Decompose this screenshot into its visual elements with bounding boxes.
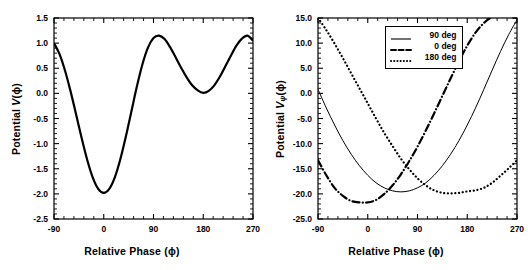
chart-panel-right: -25.0-20.0-15.0-10.0-5.00.05.010.015.0-9…	[264, 0, 528, 270]
y-tick-label: 0.0	[300, 88, 312, 98]
y-tick-label: 5.0	[300, 63, 312, 73]
plot-area-left: -2.5-2.0-1.5-1.0-0.50.00.51.01.5-9009018…	[0, 0, 264, 270]
x-tick-label: -90	[48, 224, 61, 234]
y-axis-title-right: Potential Vψ(ϕ)	[274, 80, 287, 158]
x-tick-label: 270	[246, 224, 260, 234]
legend-entry: 90 deg	[390, 29, 458, 40]
y-tick-label: 0.0	[36, 88, 48, 98]
y-tick-label: 1.5	[36, 13, 48, 23]
y-tick-label: -10.0	[293, 139, 313, 149]
y-tick-label: -15.0	[293, 164, 313, 174]
x-tick-label: 0	[101, 224, 106, 234]
y-axis-title-left: Potential V(ϕ)	[10, 83, 22, 155]
chart-panel-left: -2.5-2.0-1.5-1.0-0.50.00.51.01.5-9009018…	[0, 0, 264, 270]
y-tick-label: 1.0	[36, 38, 48, 48]
y-tick-label: -25.0	[293, 214, 313, 224]
y-tick-label: -0.5	[33, 114, 48, 124]
x-axis-title-right: Relative Phase (ϕ)	[264, 245, 528, 257]
legend-swatch-solid	[390, 30, 412, 40]
legend-swatch-dotted	[390, 52, 412, 62]
y-tick-label: 0.5	[36, 63, 48, 73]
y-tick-label: -5.0	[297, 114, 312, 124]
x-tick-label: 270	[510, 224, 524, 234]
legend-entry: 180 deg	[390, 51, 458, 62]
x-tick-label: 180	[460, 224, 474, 234]
x-tick-label: 90	[149, 224, 159, 234]
x-tick-label: 180	[196, 224, 210, 234]
legend-label: 90 deg	[415, 30, 457, 40]
y-tick-label: 15.0	[295, 13, 312, 23]
y-tick-label: -1.0	[33, 139, 48, 149]
y-tick-label: 10.0	[295, 38, 312, 48]
legend-label: 0 deg	[415, 41, 457, 51]
x-tick-label: 90	[413, 224, 423, 234]
y-tick-label: -20.0	[293, 189, 313, 199]
figure-container: -2.5-2.0-1.5-1.0-0.50.00.51.01.5-9009018…	[0, 0, 528, 270]
x-tick-label: -90	[312, 224, 325, 234]
legend-entry: 0 deg	[390, 40, 458, 51]
x-axis-title-left: Relative Phase (ϕ)	[0, 245, 264, 257]
legend-swatch-dashdot	[390, 41, 412, 51]
y-tick-label: -2.5	[33, 214, 48, 224]
legend: 90 deg0 deg180 deg	[385, 26, 463, 69]
x-tick-label: 0	[365, 224, 370, 234]
y-tick-label: -2.0	[33, 189, 48, 199]
y-tick-label: -1.5	[33, 164, 48, 174]
legend-label: 180 deg	[415, 52, 457, 62]
